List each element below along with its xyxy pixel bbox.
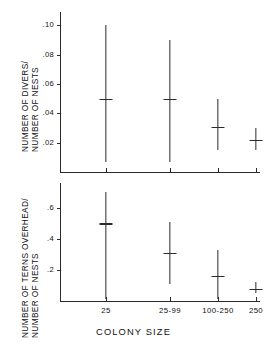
range-bar xyxy=(105,25,106,161)
x-tick-mark xyxy=(218,168,219,172)
x-tick-label: 25 xyxy=(101,306,110,315)
lower-x-axis-line xyxy=(60,301,260,302)
figure-canvas: NUMBER OF DIVERS/ NUMBER OF NESTS NUMBER… xyxy=(0,0,267,346)
y-tick-mark xyxy=(57,55,61,56)
y-tick-mark xyxy=(57,25,61,26)
x-tick-mark xyxy=(170,297,171,301)
median-marker xyxy=(250,140,263,141)
lower-y-axis-title-line1: NUMBER OF TERNS OVERHEAD/ xyxy=(20,198,30,338)
y-tick-label: .08 xyxy=(30,50,54,59)
y-tick-label: .06 xyxy=(30,79,54,88)
upper-y-axis-title-line1: NUMBER OF DIVERS/ xyxy=(20,61,30,152)
y-tick-mark xyxy=(57,270,61,271)
median-marker xyxy=(212,276,225,277)
y-tick-mark xyxy=(57,208,61,209)
y-tick-label: .4 xyxy=(30,234,54,243)
median-marker xyxy=(250,289,263,290)
y-tick-mark xyxy=(57,84,61,85)
y-tick-label: .6 xyxy=(30,203,54,212)
median-marker xyxy=(212,127,225,128)
median-marker xyxy=(164,253,177,254)
range-bar xyxy=(169,40,170,162)
y-tick-label: .2 xyxy=(30,265,54,274)
upper-y-axis-line xyxy=(60,12,61,173)
x-axis-title: COLONY SIZE xyxy=(0,326,267,337)
y-tick-mark xyxy=(57,239,61,240)
upper-x-axis-line xyxy=(60,172,260,173)
lower-plot-panel: .2.4.6 2525-99100-250250 xyxy=(60,183,260,311)
median-marker xyxy=(100,223,113,224)
median-marker xyxy=(100,99,113,100)
x-tick-mark xyxy=(170,168,171,172)
upper-plot-panel: .02.04.06.08.10 xyxy=(60,12,260,182)
y-tick-label: .02 xyxy=(30,138,54,147)
x-tick-mark xyxy=(106,168,107,172)
x-tick-label: 100-250 xyxy=(202,306,233,315)
x-tick-mark xyxy=(256,297,257,301)
x-tick-label: 250 xyxy=(249,306,263,315)
y-tick-mark xyxy=(57,113,61,114)
y-tick-label: .10 xyxy=(30,20,54,29)
y-tick-mark xyxy=(57,143,61,144)
y-tick-label: .04 xyxy=(30,108,54,117)
range-bar xyxy=(217,250,218,300)
range-bar xyxy=(105,192,106,299)
x-tick-mark xyxy=(256,168,257,172)
x-tick-label: 25-99 xyxy=(159,306,181,315)
range-bar xyxy=(217,99,218,150)
lower-y-axis-line xyxy=(60,183,61,302)
median-marker xyxy=(164,99,177,100)
